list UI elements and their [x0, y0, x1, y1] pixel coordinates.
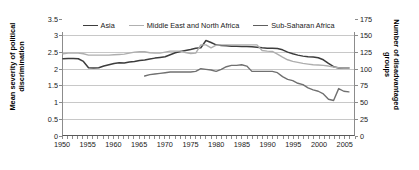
series-lines — [63, 19, 354, 135]
x-tick-mark — [293, 136, 294, 139]
x-tick-mark — [62, 136, 63, 139]
x-tick-mark — [252, 136, 253, 139]
legend-swatch-icon — [83, 25, 98, 26]
x-tick-mark — [154, 136, 155, 139]
x-tick-mark — [344, 136, 345, 139]
x-tick-mark — [267, 136, 268, 139]
x-tick-mark — [164, 136, 165, 139]
x-tick-mark — [82, 136, 83, 139]
x-tick-mark — [113, 136, 114, 139]
legend-swatch-icon — [129, 25, 144, 26]
x-tick-mark — [324, 136, 325, 139]
legend-swatch-icon — [253, 25, 268, 26]
x-tick-mark — [216, 136, 217, 139]
x-tick-mark — [329, 136, 330, 139]
left-tick-label: 0.5 — [36, 115, 58, 124]
x-tick-mark — [180, 136, 181, 139]
x-tick-mark — [92, 136, 93, 139]
x-tick-mark — [205, 136, 206, 139]
x-tick-mark — [103, 136, 104, 139]
x-tick-mark — [247, 136, 248, 139]
x-tick-mark — [257, 136, 258, 139]
x-tick-mark — [118, 136, 119, 139]
x-tick-mark — [272, 136, 273, 139]
x-tick-mark — [241, 136, 242, 139]
x-tick-mark — [190, 136, 191, 139]
x-tick-mark — [144, 136, 145, 139]
x-tick-mark — [149, 136, 150, 139]
right-tick-label: 175 — [360, 15, 386, 24]
legend-item[interactable]: Asia — [83, 21, 115, 30]
x-tick-mark — [195, 136, 196, 139]
x-tick-mark — [77, 136, 78, 139]
right-tick-label: 50 — [360, 98, 386, 107]
x-tick-mark — [139, 136, 140, 139]
left-tick-label: 2 — [36, 65, 58, 74]
left-tick-label: 1 — [36, 98, 58, 107]
x-tick-mark — [97, 136, 98, 139]
legend-item[interactable]: Sub-Saharan Africa — [253, 21, 334, 30]
x-tick-mark — [339, 136, 340, 139]
x-tick-mark — [226, 136, 227, 139]
right-tick-label: 0 — [360, 132, 386, 141]
x-tick-mark — [211, 136, 212, 139]
x-tick-mark — [231, 136, 232, 139]
series-line — [145, 65, 349, 101]
chart-legend: AsiaMiddle East and North AfricaSub-Saha… — [62, 19, 355, 32]
x-tick-mark — [221, 136, 222, 139]
right-tick-mark — [355, 52, 358, 53]
left-tick-label: 3 — [36, 31, 58, 40]
x-tick-mark — [319, 136, 320, 139]
right-tick-label: 125 — [360, 48, 386, 57]
x-tick-mark — [169, 136, 170, 139]
x-tick-mark — [72, 136, 73, 139]
x-tick-mark — [288, 136, 289, 139]
x-tick-mark — [262, 136, 263, 139]
right-tick-mark — [355, 69, 358, 70]
right-tick-mark — [355, 102, 358, 103]
right-tick-mark — [355, 119, 358, 120]
legend-label: Sub-Saharan Africa — [271, 21, 334, 30]
x-tick-mark — [303, 136, 304, 139]
x-tick-mark — [200, 136, 201, 139]
legend-label: Middle East and North Africa — [147, 21, 239, 30]
left-tick-label: 3.5 — [36, 15, 58, 24]
right-tick-label: 100 — [360, 65, 386, 74]
x-tick-mark — [355, 136, 356, 139]
x-tick-mark — [308, 136, 309, 139]
plot-area — [62, 19, 355, 136]
right-tick-mark — [355, 35, 358, 36]
x-tick-mark — [175, 136, 176, 139]
x-tick-mark — [313, 136, 314, 139]
left-tick-label: 1.5 — [36, 81, 58, 90]
left-tick-label: 2.5 — [36, 48, 58, 57]
x-tick-mark — [298, 136, 299, 139]
left-axis-title: Mean severity of political discriminatio… — [9, 13, 26, 121]
x-tick-label: 2005 — [328, 140, 362, 149]
x-tick-mark — [128, 136, 129, 139]
x-tick-mark — [108, 136, 109, 139]
legend-item[interactable]: Middle East and North Africa — [129, 21, 239, 30]
x-tick-mark — [277, 136, 278, 139]
x-tick-mark — [159, 136, 160, 139]
x-tick-mark — [67, 136, 68, 139]
x-tick-mark — [185, 136, 186, 139]
right-tick-mark — [355, 19, 358, 20]
x-tick-mark — [87, 136, 88, 139]
right-tick-label: 25 — [360, 115, 386, 124]
x-tick-mark — [123, 136, 124, 139]
right-tick-label: 75 — [360, 81, 386, 90]
right-tick-mark — [355, 85, 358, 86]
gridline — [63, 136, 354, 137]
chart-figure: Mean severity of political discriminatio… — [0, 0, 419, 170]
x-tick-mark — [349, 136, 350, 139]
legend-label: Asia — [101, 21, 115, 30]
x-tick-mark — [133, 136, 134, 139]
x-tick-mark — [236, 136, 237, 139]
x-tick-mark — [334, 136, 335, 139]
x-tick-mark — [283, 136, 284, 139]
right-tick-label: 150 — [360, 31, 386, 40]
